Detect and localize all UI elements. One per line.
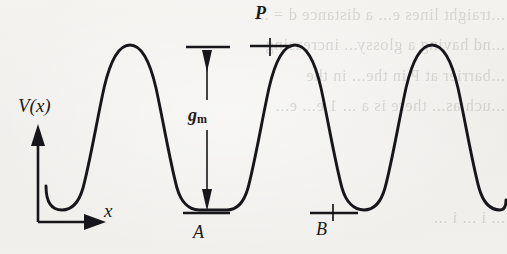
barrier-height-lower-arrowhead: [202, 189, 212, 211]
well-label-b: B: [316, 219, 327, 240]
x-axis-arrowhead: [84, 214, 106, 230]
peak-label-p: P: [255, 3, 266, 24]
potential-curve-plot: [0, 0, 507, 254]
potential-energy-figure: ...traight lines e... a distance d = ...…: [0, 0, 507, 254]
barrier-height-upper-arrowhead: [202, 50, 212, 72]
well-label-a: A: [193, 222, 204, 243]
barrier-height-label: gm: [188, 105, 207, 127]
barrier-height-symbol: g: [188, 105, 197, 125]
y-axis-label: V(x): [18, 95, 51, 117]
y-axis-arrowhead: [31, 124, 45, 146]
potential-curve: [46, 45, 506, 210]
x-axis-label: x: [104, 200, 112, 222]
barrier-height-subscript: m: [197, 112, 207, 126]
